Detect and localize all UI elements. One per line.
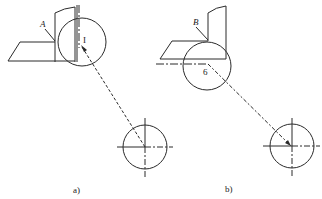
leader-a [45, 29, 55, 41]
panel-b [156, 6, 320, 176]
dashed-leader-b [208, 64, 291, 146]
label-point-a: I [83, 35, 86, 45]
leader-b [196, 27, 208, 40]
label-B: B [193, 17, 199, 27]
label-point-b: 6 [203, 67, 208, 77]
tool-blade-b [208, 6, 226, 59]
caption-b: b) [225, 184, 233, 194]
large-circle-b [183, 42, 231, 90]
dashed-leader-a [82, 47, 145, 147]
arrow-head-a [81, 45, 87, 52]
tool-blade-a [55, 7, 75, 62]
panel-a [8, 5, 173, 177]
arrow-head-b [285, 140, 291, 146]
caption-a: a) [73, 185, 80, 195]
diagram-canvas: A I B 6 a) b) [0, 0, 322, 199]
large-circle-a [58, 18, 106, 66]
label-A: A [39, 19, 46, 29]
tool-holder-a [8, 42, 75, 61]
